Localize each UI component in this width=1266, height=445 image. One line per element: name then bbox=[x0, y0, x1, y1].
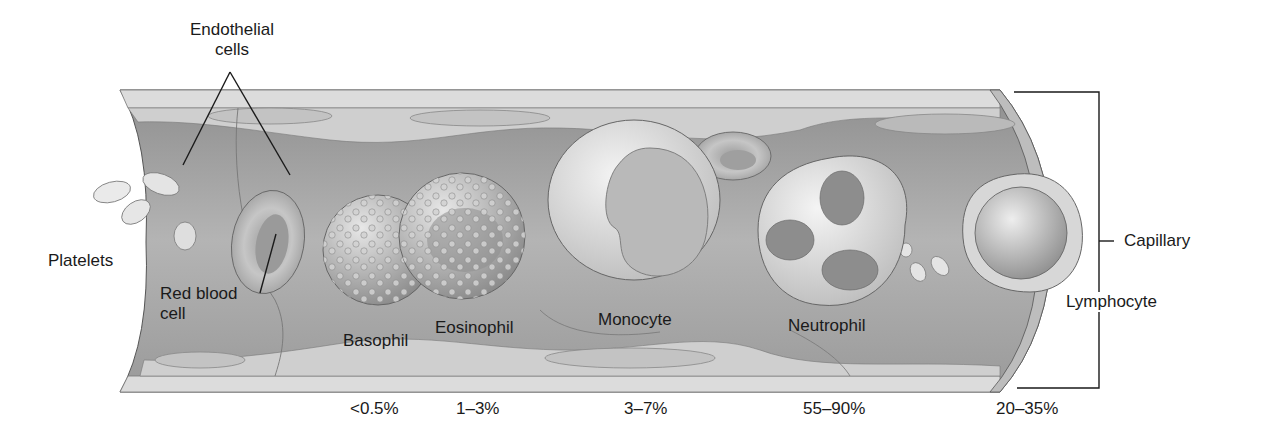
label-eosinophil: Eosinophil bbox=[435, 318, 513, 338]
neutrophil-cell bbox=[758, 156, 907, 306]
label-monocyte: Monocyte bbox=[598, 310, 672, 330]
label-endothelial-line2: cells bbox=[172, 40, 292, 60]
eosinophil-cell bbox=[399, 173, 525, 299]
pct-neutrophil: 55–90% bbox=[803, 399, 865, 419]
label-platelets: Platelets bbox=[48, 251, 113, 271]
label-endothelial-line1: Endothelial bbox=[172, 20, 292, 40]
monocyte-cell bbox=[548, 120, 720, 280]
capillary-illustration bbox=[0, 0, 1266, 445]
label-capillary: Capillary bbox=[1124, 231, 1190, 251]
label-endothelial-cells: Endothelial cells bbox=[172, 20, 292, 60]
pct-monocyte: 3–7% bbox=[624, 399, 667, 419]
label-basophil: Basophil bbox=[343, 331, 408, 351]
label-lymphocyte: Lymphocyte bbox=[1066, 292, 1157, 312]
pct-basophil: <0.5% bbox=[350, 399, 399, 419]
lymphocyte-cell bbox=[963, 174, 1083, 292]
pct-eosinophil: 1–3% bbox=[456, 399, 499, 419]
pct-lymphocyte: 20–35% bbox=[996, 399, 1058, 419]
label-red-blood-cell: Red blood cell bbox=[160, 284, 238, 324]
capillary-diagram: Endothelial cells Platelets Red blood ce… bbox=[0, 0, 1266, 445]
label-neutrophil: Neutrophil bbox=[788, 316, 866, 336]
label-rbc-line1: Red blood bbox=[160, 284, 238, 304]
label-rbc-line2: cell bbox=[160, 304, 238, 324]
